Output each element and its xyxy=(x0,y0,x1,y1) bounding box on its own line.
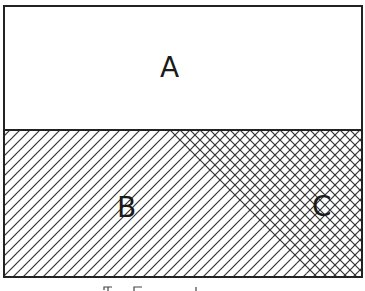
caption-fragment xyxy=(104,287,196,291)
region-c-label: C xyxy=(312,190,332,223)
venn-style-region-diagram: A B C xyxy=(0,0,365,291)
region-a-label: A xyxy=(160,51,179,84)
region-b-label: B xyxy=(117,191,136,224)
